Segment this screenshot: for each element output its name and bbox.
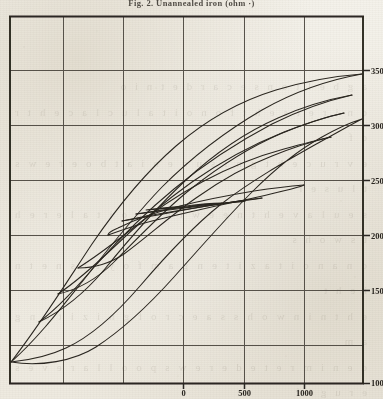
x-tick-label-0: 0 <box>181 388 185 398</box>
loop-curve-3-descending <box>58 113 344 294</box>
y-tick-label-250: 250 <box>371 176 383 186</box>
loop-curve-4-descending <box>78 137 331 268</box>
chart-frame <box>9 16 364 384</box>
loop-curve-4-ascending <box>78 137 331 268</box>
y-tick-label-200: 200 <box>371 231 383 241</box>
x-tick-label-500: 500 <box>238 388 251 398</box>
hysteresis-figure: 350 300 250 200 150 100 0 500 1000 <box>0 0 383 399</box>
x-tick-label-1000: 1000 <box>296 388 313 398</box>
loop-curve-3-ascending <box>58 113 344 294</box>
y-axis-tick-labels: 350 300 250 200 150 100 <box>371 66 383 388</box>
y-tick-label-150: 150 <box>371 286 383 296</box>
chart-gridlines <box>10 16 363 383</box>
loop-curve-5-ascending <box>108 185 304 235</box>
chart-svg: 350 300 250 200 150 100 0 500 1000 <box>0 0 383 399</box>
y-axis-ticks <box>363 71 370 384</box>
y-tick-label-350: 350 <box>371 66 383 76</box>
x-axis-tick-labels: 0 500 1000 <box>181 388 313 398</box>
y-tick-label-300: 300 <box>371 121 383 131</box>
y-tick-label-100: 100 <box>371 378 383 388</box>
loop-curve-5-descending <box>108 185 304 235</box>
